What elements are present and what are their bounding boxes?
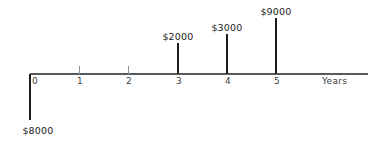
axis-tick-label-3: 3 (169, 76, 189, 86)
axis-tick-label-0: 0 (25, 76, 45, 86)
cash-flow-label-year-0: $8000 (8, 125, 68, 136)
time-axis-line (30, 73, 368, 75)
axis-tick-1 (79, 66, 80, 75)
axis-tick-label-5: 5 (267, 76, 287, 86)
axis-tick-label-2: 2 (119, 76, 139, 86)
cash-flow-bar-year-0 (29, 74, 31, 120)
axis-title-years: Years (322, 76, 347, 86)
cash-flow-bar-year-4 (226, 34, 228, 74)
cash-flow-diagram: 0 1 2 3 4 5 $8000 $2000 $3000 $9000 Year… (0, 0, 371, 144)
cash-flow-bar-year-5 (275, 18, 277, 74)
cash-flow-label-year-5: $9000 (246, 6, 306, 17)
axis-tick-label-4: 4 (218, 76, 238, 86)
cash-flow-label-year-4: $3000 (197, 22, 257, 33)
axis-tick-label-1: 1 (70, 76, 90, 86)
axis-tick-2 (128, 66, 129, 75)
cash-flow-bar-year-3 (177, 43, 179, 74)
